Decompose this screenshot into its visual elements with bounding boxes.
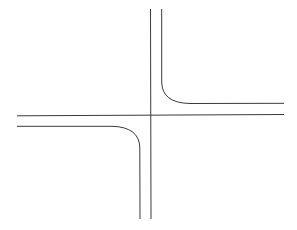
upper-right-curb-line <box>162 9 284 104</box>
lower-left-curb-line <box>17 126 140 219</box>
intersection-svg <box>0 0 297 230</box>
intersection-diagram <box>0 0 297 230</box>
horizontal-road-line <box>17 115 284 116</box>
vertical-road-line <box>151 9 152 219</box>
